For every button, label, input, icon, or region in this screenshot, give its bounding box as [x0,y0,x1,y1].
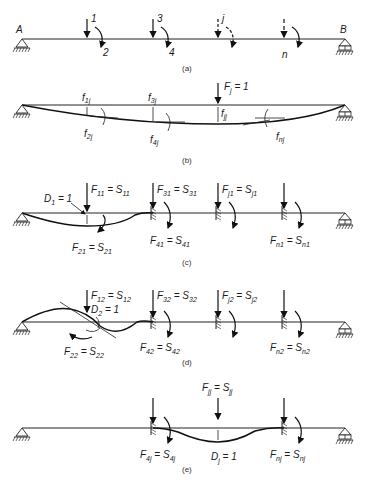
moment-arrow-icon [295,311,301,337]
roller-support-icon [336,428,353,444]
coord-2: 2 [102,47,109,58]
coord-1: 1 [91,13,97,24]
force-f31: F31 = S31 [157,184,197,197]
force-f12: F12 = S12 [91,290,131,303]
coord-j: j [220,13,225,24]
flex-f4j: f4j [150,134,159,147]
pin-support-icon [13,428,30,441]
force-fjj: Fjj = Sjj [202,382,233,396]
force-f41: F41 = S41 [150,235,190,248]
caption-c: (c) [182,258,192,267]
caption-d: (d) [182,358,192,367]
panel-e: Fjj = Sjj Dj = 1 F4j = S4j Fnj = Snj (e) [13,382,353,474]
support-label-a: A [15,24,23,35]
pin-support-icon [13,322,30,335]
force-f4j: F4j = S4j [140,449,176,463]
moment-arrow-icon [164,311,170,337]
panel-b: Fj = 1 f1j f2j f3j f4j fjj fnj (b) [13,81,353,165]
deflected-shape [153,428,284,442]
unit-load-label: Fj = 1 [224,81,249,95]
panel-a: A B 1 2 3 4 j n (a) [13,13,353,73]
force-f32: F32 = S32 [157,290,197,303]
moment-arrow-icon [292,27,299,47]
coord-3: 3 [157,13,163,24]
rotation-arc [86,328,100,332]
moment-arrow-icon [164,202,170,228]
force-fn2: Fn2 = Sn2 [270,342,310,355]
caption-a: (a) [182,64,192,73]
coord-4: 4 [169,47,175,58]
force-f22: F22 = S22 [64,346,104,359]
pin-support-icon [13,39,30,52]
force-fnj: Fnj = Snj [270,449,306,463]
moment-arrow-icon [229,311,235,337]
force-f11: F11 = S11 [91,184,130,197]
panel-c: D1 = 1 F11 = S11 F21 = S21 F31 = S31 F41… [13,183,353,267]
flex-f2j: f2j [84,128,93,141]
force-f42: F42 = S42 [140,342,180,355]
flex-f3j: f3j [148,92,157,105]
force-fj2: Fj2 = Sj2 [222,290,257,304]
support-label-b: B [340,24,347,35]
pin-support-icon [13,105,30,118]
deflected-shape [22,213,153,226]
roller-support-icon [336,213,353,229]
roller-support-icon [336,39,353,55]
force-f21: F21 = S21 [72,242,112,255]
moment-arrow-icon [95,27,102,47]
moment-arrow-icon [229,202,235,228]
flex-f1j: f1j [82,92,91,105]
leader-arrow [71,203,85,214]
disp-d1-label: D1 = 1 [44,193,72,206]
moment-arrow-icon [98,215,105,232]
caption-b: (b) [182,156,192,165]
flex-fjj: fjj [221,108,227,121]
moment-arrow-icon [161,27,168,47]
flex-fnj: fnj [276,131,285,144]
counterclockwise-moment-icon [70,334,92,339]
moment-arrow-dashed-icon [226,27,233,47]
coord-n: n [282,49,288,60]
force-fj1: Fj1 = Sj1 [222,184,257,198]
deflected-shape [22,105,345,124]
disp-d2-label: D2 = 1 [91,304,119,317]
roller-support-icon [336,322,353,338]
moment-arrow-icon [295,417,301,443]
structural-diagram: A B 1 2 3 4 j n (a) Fj = 1 f1j f2j f3j [0,0,374,484]
force-fn1: Fn1 = Sn1 [270,235,310,248]
disp-dj-label: Dj = 1 [211,451,237,465]
moment-arrow-icon [295,202,301,228]
panel-d: F12 = S12 D2 = 1 F22 = S22 F32 = S32 F42… [13,290,353,367]
caption-e: (e) [182,465,192,474]
